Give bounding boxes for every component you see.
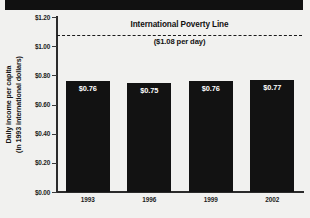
bar[interactable]: $0.75 [127, 83, 171, 192]
y-axis-title-line1: Daily income per capita [4, 66, 13, 144]
y-axis-tick-mark [52, 46, 57, 47]
chart-figure: Daily income per capita (in 1993 interna… [0, 0, 310, 218]
bar-value-label: $0.77 [250, 83, 294, 92]
y-axis-tick-label: $1.20 [24, 14, 50, 21]
y-axis-tick-label: $1.00 [24, 43, 50, 50]
x-axis-tick-label: 1993 [66, 196, 110, 203]
y-axis-tick-label: $0.20 [24, 159, 50, 166]
international-poverty-line [57, 35, 302, 36]
y-axis-tick-label: $0.40 [24, 130, 50, 137]
y-axis-tick-label: $0.60 [24, 101, 50, 108]
poverty-line-label: International Poverty Line [57, 20, 302, 29]
x-axis-tick-label: 2002 [250, 196, 294, 203]
bar-value-label: $0.75 [127, 86, 171, 95]
bar[interactable]: $0.76 [66, 81, 110, 192]
y-axis-tick-mark [52, 105, 57, 106]
y-axis-tick-labels: $1.20$1.00$0.80$0.60$0.40$0.20$0.00 [22, 0, 50, 218]
y-axis-tick-mark [52, 134, 57, 135]
y-axis-tick-mark [52, 192, 57, 193]
y-axis-title: Daily income per capita (in 1993 interna… [4, 30, 23, 180]
poverty-line-sublabel: ($1.08 per day) [57, 37, 302, 46]
x-axis-tick-label: 1999 [189, 196, 233, 203]
bar[interactable]: $0.76 [189, 81, 233, 192]
bar[interactable]: $0.77 [250, 80, 294, 192]
bar-value-label: $0.76 [66, 84, 110, 93]
y-axis-tick-mark [52, 17, 57, 18]
y-axis-tick-label: $0.00 [24, 189, 50, 196]
y-axis-tick-mark [52, 163, 57, 164]
bar-value-label: $0.76 [189, 84, 233, 93]
y-axis-tick-mark [52, 75, 57, 76]
y-axis-title-line2: (in 1993 international dollars) [13, 56, 22, 153]
y-axis-tick-label: $0.80 [24, 72, 50, 79]
x-axis-tick-label: 1996 [127, 196, 171, 203]
